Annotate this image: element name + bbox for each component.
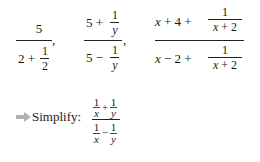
expr3-num-inner-num: 1 [209, 6, 241, 18]
bottom-b-num: 1 [110, 122, 117, 133]
expr2-den-inner-den: y [111, 59, 119, 71]
expr1-inner-numerator: 1 [41, 45, 49, 57]
expr2-den-whole: 5 − [86, 51, 103, 65]
expr2-fraction-bar [84, 40, 122, 41]
expr1-fraction-bar [16, 40, 52, 41]
expr3-num-inner-den: x + 2 [209, 21, 241, 33]
simplify-fraction-bar [92, 119, 120, 120]
top-b-den: y [110, 108, 117, 119]
top-op: + [102, 102, 108, 113]
expr3-den-inner-den: x + 2 [209, 59, 241, 71]
expr3-den-inner-num: 1 [209, 44, 241, 56]
expr2-comma: , [123, 33, 126, 47]
expr3-fraction-bar [155, 40, 244, 41]
simplify-label: Simplify: [32, 110, 81, 124]
bottom-a-num: 1 [93, 122, 100, 133]
bottom-op: − [102, 127, 108, 138]
expr1-numerator: 5 [32, 22, 46, 36]
expr1-comma: , [52, 33, 55, 47]
top-a-den: x [93, 108, 100, 119]
expr1-denominator-whole: 2 + [18, 52, 35, 66]
expr2-num-inner-num: 1 [111, 9, 119, 21]
bottom-b-den: y [110, 134, 117, 145]
expr2-den-inner-num: 1 [111, 44, 119, 56]
bottom-a-den: x [93, 134, 100, 145]
expr3-den-whole: x − 2 + [155, 52, 192, 66]
expr3-num-whole: x + 4 + [155, 15, 192, 29]
expr1-inner-denominator: 2 [41, 60, 49, 72]
expr2-num-whole: 5 + [86, 16, 103, 30]
expr2-num-inner-den: y [111, 24, 119, 36]
arrow-right-icon [16, 112, 31, 122]
